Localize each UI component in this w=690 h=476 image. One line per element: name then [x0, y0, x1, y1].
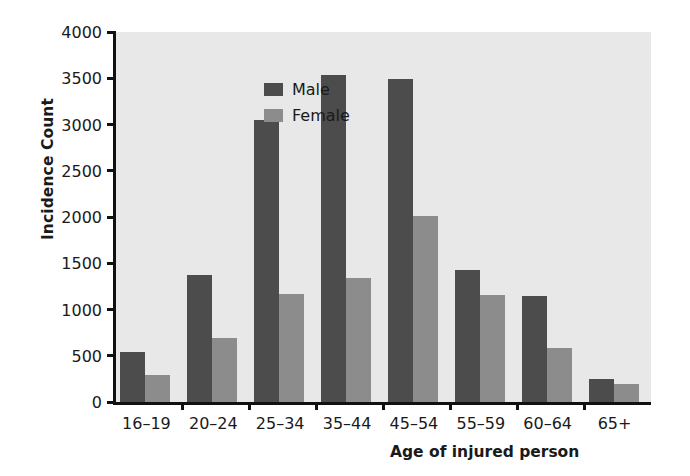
x-tick-mark — [248, 402, 251, 410]
bar-male-65+ — [589, 379, 614, 402]
bar-female-16-19 — [145, 375, 170, 402]
y-tick-label: 500 — [71, 346, 102, 365]
x-tick-label: 65+ — [598, 414, 632, 433]
x-tick-label: 16–19 — [122, 414, 171, 433]
bar-female-35-44 — [346, 278, 371, 402]
y-tick-mark — [107, 169, 116, 172]
y-tick-label: 1500 — [61, 254, 102, 273]
legend-label: Female — [292, 106, 350, 125]
y-tick-mark — [107, 308, 116, 311]
x-tick-mark — [315, 402, 318, 410]
x-tick-label: 20–24 — [189, 414, 238, 433]
y-tick-label: 1000 — [61, 300, 102, 319]
y-tick-label: 2000 — [61, 208, 102, 227]
bar-male-55-59 — [455, 270, 480, 402]
x-tick-label: 60–64 — [523, 414, 572, 433]
bar-male-16-19 — [120, 352, 145, 402]
bar-female-20-24 — [212, 338, 237, 402]
y-tick-label: 3000 — [61, 115, 102, 134]
y-tick-label: 0 — [92, 393, 102, 412]
legend-item-male: Male — [264, 80, 350, 99]
bar-male-20-24 — [187, 275, 212, 402]
x-tick-label: 45–54 — [390, 414, 439, 433]
bar-male-25-34 — [254, 120, 279, 402]
y-tick-mark — [107, 354, 116, 357]
y-axis-title: Incidence Count — [39, 69, 57, 269]
legend-swatch-icon — [264, 83, 283, 96]
y-tick-label: 4000 — [61, 23, 102, 42]
x-tick-mark — [583, 402, 586, 410]
y-tick-mark — [107, 401, 116, 404]
bar-female-55-59 — [480, 295, 505, 402]
bar-female-45-54 — [413, 216, 438, 402]
y-tick-mark — [107, 262, 116, 265]
x-tick-label: 35–44 — [323, 414, 372, 433]
legend-label: Male — [292, 80, 330, 99]
legend-item-female: Female — [264, 106, 350, 125]
bar-female-25-34 — [279, 294, 304, 402]
x-tick-mark — [516, 402, 519, 410]
bar-male-60-64 — [522, 296, 547, 402]
legend-swatch-icon — [264, 109, 283, 122]
plot-area: 05001000150020002500300035004000 MaleFem… — [113, 32, 651, 405]
y-tick-mark — [107, 31, 116, 34]
x-axis-title: Age of injured person — [390, 443, 579, 461]
x-tick-label: 55–59 — [456, 414, 505, 433]
bar-female-60-64 — [547, 348, 572, 402]
chart-legend: MaleFemale — [264, 80, 350, 132]
y-tick-label: 3500 — [61, 69, 102, 88]
bar-chart-figure: Incidence Count Age of injured person 05… — [0, 0, 690, 476]
y-tick-mark — [107, 123, 116, 126]
x-tick-mark — [382, 402, 385, 410]
x-tick-mark — [181, 402, 184, 410]
y-tick-mark — [107, 77, 116, 80]
y-tick-label: 2500 — [61, 161, 102, 180]
bar-male-45-54 — [388, 79, 413, 402]
y-tick-mark — [107, 216, 116, 219]
bar-female-65+ — [614, 384, 639, 403]
x-tick-mark — [449, 402, 452, 410]
x-tick-label: 25–34 — [256, 414, 305, 433]
